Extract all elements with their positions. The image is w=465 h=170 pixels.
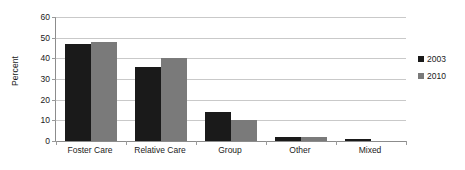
y-axis-title: Percent: [6, 0, 24, 141]
legend-swatch-icon: [418, 56, 424, 62]
y-axis-tick-labels: 0102030405060: [24, 17, 50, 141]
bar: [231, 120, 257, 141]
x-axis-tick-mark: [336, 141, 337, 145]
x-axis-tick-mark: [126, 141, 127, 145]
y-axis-tick-mark: [52, 120, 56, 121]
legend-item[interactable]: 2003: [418, 52, 446, 66]
y-axis-tick-label: 60: [24, 13, 50, 22]
y-axis-tick-mark: [52, 17, 56, 18]
x-axis-tick-mark: [56, 141, 57, 145]
x-axis-tick-mark: [406, 141, 407, 145]
y-axis-tick-mark: [52, 58, 56, 59]
x-axis-tick-label: Mixed: [359, 146, 382, 155]
x-axis-tick-label: Group: [218, 146, 242, 155]
bar: [301, 137, 327, 141]
x-axis-tick-mark: [196, 141, 197, 145]
y-axis-tick-mark: [52, 100, 56, 101]
bar: [275, 137, 301, 141]
x-axis-tick-label: Other: [289, 146, 310, 155]
x-axis-tick-mark: [266, 141, 267, 145]
y-axis-tick-mark: [52, 38, 56, 39]
y-axis-tick-mark: [52, 79, 56, 80]
bar: [205, 112, 231, 141]
bar: [65, 44, 91, 141]
bar: [345, 139, 371, 141]
bar-group: [205, 17, 257, 141]
bar-group: [135, 17, 187, 141]
bar: [135, 67, 161, 141]
y-axis-tick-label: 10: [24, 116, 50, 125]
legend-item-label: 2003: [427, 55, 446, 64]
x-axis-tick-label: Relative Care: [134, 146, 186, 155]
legend-swatch-icon: [418, 73, 424, 79]
y-axis-title-text: Percent: [10, 56, 20, 86]
bar-chart: Percent 0102030405060 Foster CareRelativ…: [0, 0, 465, 170]
legend-item-label: 2010: [427, 72, 446, 81]
bar: [91, 42, 117, 141]
bar: [161, 58, 187, 141]
y-axis-tick-label: 20: [24, 95, 50, 104]
chart-legend: 20032010: [418, 52, 446, 86]
plot-area: [55, 17, 406, 141]
x-axis-baseline: [56, 141, 406, 142]
y-axis-tick-label: 50: [24, 33, 50, 42]
y-axis-tick-label: 40: [24, 54, 50, 63]
legend-item[interactable]: 2010: [418, 69, 446, 83]
bar-group: [275, 17, 327, 141]
x-axis-tick-label: Foster Care: [68, 146, 113, 155]
y-axis-tick-label: 0: [24, 137, 50, 146]
bar-group: [345, 17, 397, 141]
x-axis-tick-labels: Foster CareRelative CareGroupOtherMixed: [55, 146, 405, 162]
bar-group: [65, 17, 117, 141]
y-axis-tick-label: 30: [24, 75, 50, 84]
